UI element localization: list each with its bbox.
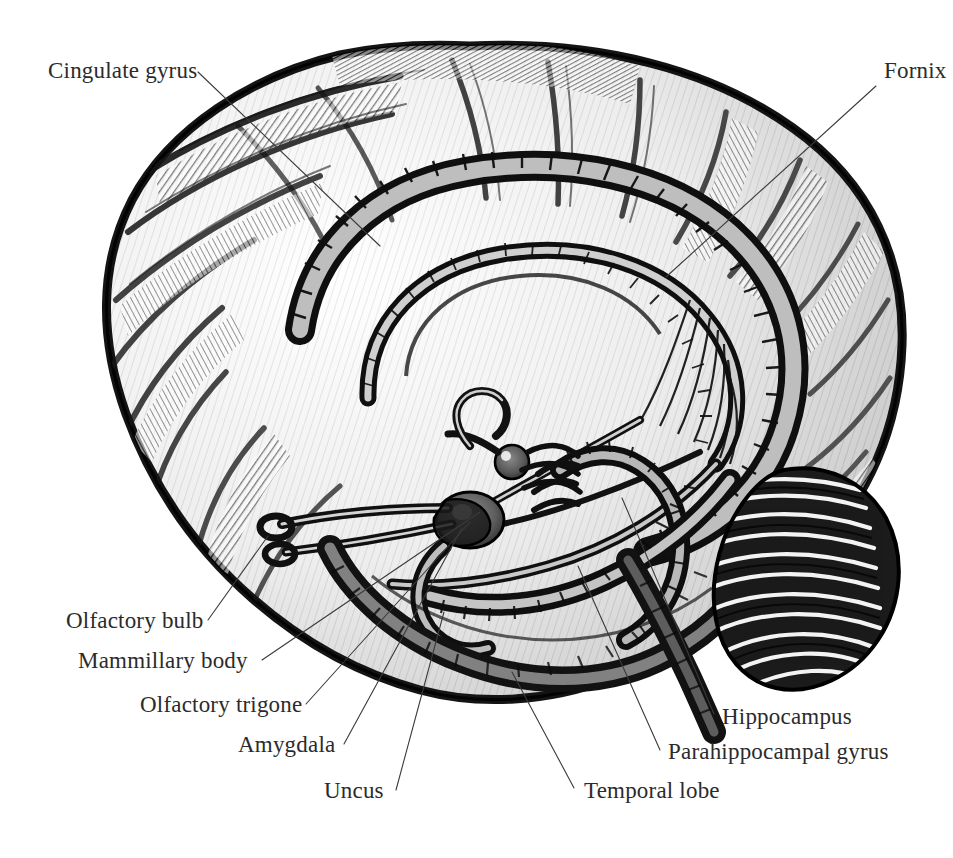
label-parahippocampal-gyrus: Parahippocampal gyrus [668, 739, 889, 764]
label-olfactory-bulb: Olfactory bulb [66, 608, 204, 633]
label-amygdala: Amygdala [238, 732, 335, 757]
label-mammillary-body: Mammillary body [78, 648, 248, 673]
label-cingulate-gyrus: Cingulate gyrus [48, 58, 197, 83]
label-temporal-lobe: Temporal lobe [584, 778, 720, 803]
anatomical-figure: Cingulate gyrus Fornix Olfactory bulb Ma… [0, 0, 953, 858]
brain-illustration-svg: Cingulate gyrus Fornix Olfactory bulb Ma… [0, 0, 953, 858]
label-uncus: Uncus [324, 778, 384, 803]
label-olfactory-trigone: Olfactory trigone [140, 692, 302, 717]
label-fornix: Fornix [884, 58, 947, 83]
label-hippocampus: Hippocampus [722, 704, 852, 729]
